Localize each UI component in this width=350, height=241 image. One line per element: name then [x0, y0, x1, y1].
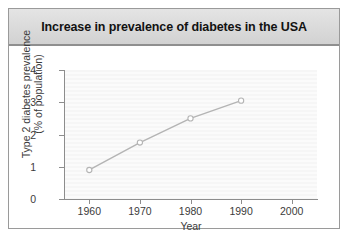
chart-title-bar: Increase in prevalence of diabetes in th… [9, 9, 339, 46]
page-title: Increase in prevalence of diabetes in th… [41, 20, 307, 34]
data-series-layer [9, 48, 339, 228]
series-line [89, 101, 241, 170]
chart-figure: Increase in prevalence of diabetes in th… [8, 8, 340, 229]
data-point-1970 [137, 140, 142, 145]
series-markers [87, 98, 244, 173]
data-point-1980 [188, 116, 193, 121]
data-point-1960 [87, 167, 92, 172]
data-point-1990 [239, 98, 244, 103]
chart-plot-body: 4 3 2 1 0 1960 1970 1980 1990 2000 Year … [9, 48, 339, 228]
